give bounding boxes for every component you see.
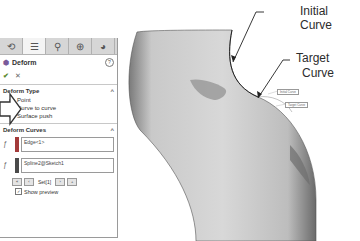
show-preview-row[interactable]: ✓ Show preview (0, 187, 117, 196)
ok-button[interactable]: ✔ (3, 72, 9, 80)
deform-feature-icon: ⬢ (3, 59, 9, 67)
add-set-button[interactable]: + (67, 178, 77, 186)
target-curve-row: ƒ Spline2@Sketch1 (0, 156, 117, 177)
initial-curve-tag: Initial Curve (277, 89, 299, 95)
tab-feature-manager[interactable]: ⟲ (0, 38, 23, 54)
feature-title-row: ⬢ Deform ? (0, 55, 117, 70)
manager-tabs: ⟲ ☰ ⚲ ⊕ ◕ (0, 38, 117, 55)
first-set-button[interactable]: « (12, 178, 22, 186)
initial-curve-field[interactable]: Edge<1> (21, 137, 114, 152)
pointer-arrow-icon (0, 92, 22, 126)
target-curve-callout-line2: Curve (302, 66, 334, 80)
show-preview-label: Show preview (24, 189, 58, 195)
shaded-region (190, 79, 226, 100)
tab-configuration-manager[interactable]: ⚲ (46, 38, 69, 54)
radio-label: Surface push (17, 113, 52, 119)
target-curve-field[interactable]: Spline2@Sketch1 (21, 158, 114, 173)
collapse-caret-icon[interactable]: ^ (110, 127, 114, 133)
target-curve-tag: Target Curve (285, 102, 308, 108)
configuration-manager-icon: ⚲ (54, 41, 61, 52)
deform-property-manager: ⟲ ☰ ⚲ ⊕ ◕ ⬢ Deform ? ✔ ✕ Deform Type ^ P… (0, 38, 118, 238)
cancel-button[interactable]: ✕ (15, 72, 21, 80)
deform-curves-section: Deform Curves ^ ƒ Edge<1> ƒ Spline2@Sket… (0, 123, 117, 196)
tab-dimxpert-manager[interactable]: ⊕ (69, 38, 92, 54)
initial-curve-icon: ƒ (3, 137, 13, 147)
feature-manager-icon: ⟲ (7, 41, 15, 52)
tab-property-manager[interactable]: ☰ (23, 38, 46, 54)
deformed-part-body (129, 30, 316, 241)
tab-display-manager[interactable]: ◕ (92, 38, 115, 54)
target-curve-callout-line1: Target (296, 51, 329, 65)
initial-curve-edge (230, 30, 258, 97)
target-curve-color (15, 158, 19, 173)
next-set-button[interactable]: › (55, 178, 65, 186)
initial-curve-color (15, 137, 19, 152)
set-label: Set[1] (38, 179, 51, 185)
show-preview-checkbox[interactable]: ✓ (15, 188, 22, 195)
initial-curve-callout: Initial Curve (300, 4, 360, 32)
set-navigation: « ‹ Set[1] › + (0, 177, 117, 187)
feature-title: Deform (12, 59, 37, 66)
help-button[interactable]: ? (105, 58, 114, 67)
deform-curves-label: Deform Curves (3, 127, 46, 133)
display-manager-icon: ◕ (100, 41, 106, 52)
collapse-caret-icon[interactable]: ^ (110, 88, 114, 94)
initial-curve-row: ƒ Edge<1> (0, 135, 117, 156)
dimxpert-icon: ⊕ (76, 41, 84, 52)
ok-cancel-row: ✔ ✕ (0, 70, 117, 81)
target-curve-icon: ƒ (3, 158, 13, 168)
prev-set-button[interactable]: ‹ (24, 178, 34, 186)
radio-label: Curve to curve (17, 105, 56, 111)
initial-curve-leader (233, 12, 264, 62)
property-manager-icon: ☰ (30, 41, 39, 52)
